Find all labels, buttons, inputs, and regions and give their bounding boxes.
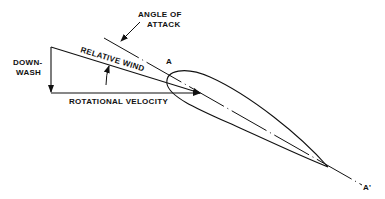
angle-of-attack-label-1: ANGLE OF — [138, 10, 182, 19]
downwash-label-1: DOWN- — [13, 58, 43, 67]
downwash-label-2: WASH — [16, 68, 41, 77]
chord-line — [104, 38, 362, 185]
airfoil-diagram: ANGLE OF ATTACK RELATIVE WIND DOWN- WASH… — [0, 0, 385, 199]
rotational-velocity-label: ROTATIONAL VELOCITY — [69, 97, 168, 106]
angle-of-attack-label-2: ATTACK — [147, 20, 181, 29]
point-a-prime-label: A' — [363, 183, 371, 192]
point-a-label: A — [166, 57, 172, 66]
angle-of-attack-pointer — [121, 22, 140, 41]
angle-arc-arrow — [106, 66, 109, 85]
relative-wind-arrow — [51, 47, 200, 93]
airfoil-outline — [167, 71, 328, 167]
